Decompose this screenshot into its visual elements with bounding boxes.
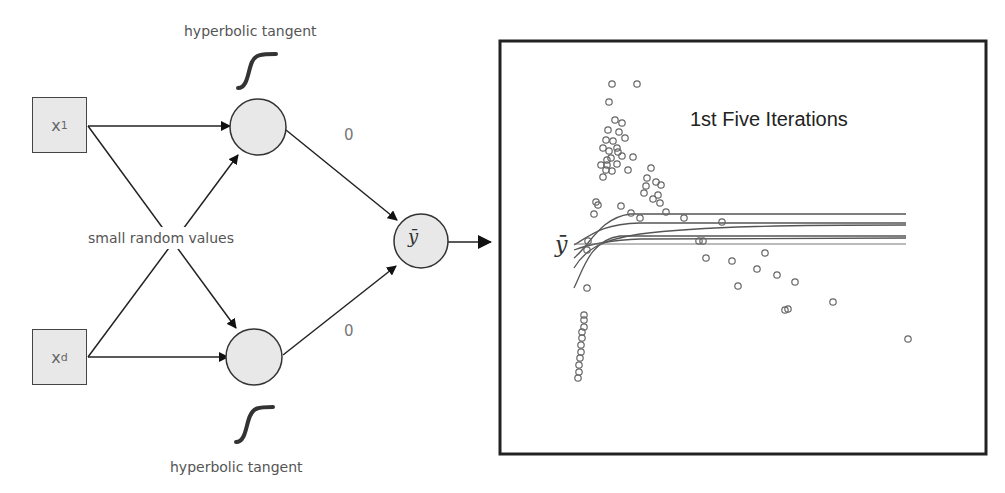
- input-x1-label: x: [51, 116, 60, 135]
- edge-h2-out: [283, 266, 396, 355]
- chart-title: 1st Five Iterations: [690, 108, 848, 131]
- output-node: [394, 214, 448, 268]
- activation-label-bottom: hyperbolic tangent: [170, 459, 303, 475]
- activation-label-top: hyperbolic tangent: [184, 23, 317, 39]
- output-weight-top: 0: [344, 126, 354, 144]
- diagram-canvas: [0, 0, 1005, 493]
- chart-frame: [500, 41, 986, 454]
- output-edges: [283, 130, 491, 355]
- edge-xd-h1: [88, 155, 238, 357]
- tanh-icon-bottom: [236, 407, 273, 442]
- output-node-label: ȳ: [408, 226, 418, 247]
- input-xd-label: x: [51, 348, 60, 367]
- weights-label: small random values: [88, 230, 234, 246]
- input-node-x1: x1: [32, 97, 87, 153]
- input-xd-subscript: d: [61, 351, 68, 364]
- chart-ylabel: ȳ: [555, 232, 567, 257]
- edge-h1-out: [286, 130, 397, 220]
- hidden-node-1: [230, 99, 286, 155]
- output-weight-bottom: 0: [344, 322, 354, 340]
- tanh-icon-top: [238, 54, 276, 88]
- input-x1-subscript: 1: [61, 119, 68, 132]
- input-node-xd: xd: [32, 329, 87, 385]
- hidden-node-2: [226, 329, 282, 385]
